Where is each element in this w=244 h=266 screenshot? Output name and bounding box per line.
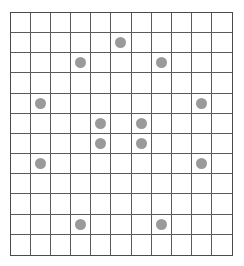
board-cell[interactable]	[11, 53, 31, 73]
board-cell[interactable]	[172, 33, 192, 53]
board-cell[interactable]	[11, 94, 31, 114]
board-cell[interactable]	[192, 215, 212, 235]
board-cell[interactable]	[71, 194, 91, 214]
board-cell[interactable]	[132, 94, 152, 114]
board-cell[interactable]	[172, 215, 192, 235]
game-piece-dot[interactable]	[156, 219, 167, 230]
board-cell[interactable]	[31, 174, 51, 194]
board-cell[interactable]	[172, 134, 192, 154]
board-cell[interactable]	[152, 13, 172, 33]
board-cell[interactable]	[11, 215, 31, 235]
board-cell[interactable]	[31, 215, 51, 235]
board-cell[interactable]	[31, 114, 51, 134]
board-cell[interactable]	[91, 235, 111, 255]
board-cell[interactable]	[91, 94, 111, 114]
board-cell[interactable]	[31, 13, 51, 33]
board-cell[interactable]	[31, 194, 51, 214]
board-cell[interactable]	[212, 215, 232, 235]
board-cell[interactable]	[11, 33, 31, 53]
board-cell[interactable]	[152, 114, 172, 134]
board-cell[interactable]	[91, 174, 111, 194]
board-cell[interactable]	[31, 33, 51, 53]
board-cell[interactable]	[132, 73, 152, 93]
board-cell[interactable]	[152, 94, 172, 114]
board-cell[interactable]	[212, 194, 232, 214]
board-cell[interactable]	[111, 73, 131, 93]
board-cell[interactable]	[192, 174, 212, 194]
board-cell[interactable]	[11, 13, 31, 33]
board-cell[interactable]	[51, 94, 71, 114]
board-cell[interactable]	[51, 194, 71, 214]
board-cell[interactable]	[111, 154, 131, 174]
board-cell[interactable]	[51, 154, 71, 174]
board-cell[interactable]	[51, 33, 71, 53]
board-cell[interactable]	[192, 154, 212, 174]
board-cell[interactable]	[212, 33, 232, 53]
board-cell[interactable]	[91, 194, 111, 214]
board-cell[interactable]	[192, 235, 212, 255]
board-cell[interactable]	[91, 13, 111, 33]
board-cell[interactable]	[71, 13, 91, 33]
board-cell[interactable]	[91, 134, 111, 154]
board-cell[interactable]	[71, 94, 91, 114]
board-cell[interactable]	[91, 53, 111, 73]
board-cell[interactable]	[71, 73, 91, 93]
board-cell[interactable]	[71, 114, 91, 134]
board-cell[interactable]	[11, 235, 31, 255]
board-cell[interactable]	[132, 114, 152, 134]
board-cell[interactable]	[11, 73, 31, 93]
board-cell[interactable]	[172, 114, 192, 134]
board-cell[interactable]	[192, 53, 212, 73]
game-piece-dot[interactable]	[75, 219, 86, 230]
board-cell[interactable]	[152, 194, 172, 214]
board-cell[interactable]	[31, 73, 51, 93]
game-piece-dot[interactable]	[115, 37, 126, 48]
board-cell[interactable]	[51, 53, 71, 73]
game-piece-dot[interactable]	[95, 138, 106, 149]
game-piece-dot[interactable]	[75, 57, 86, 68]
board-cell[interactable]	[51, 73, 71, 93]
board-cell[interactable]	[172, 194, 192, 214]
board-cell[interactable]	[11, 194, 31, 214]
game-piece-dot[interactable]	[196, 158, 207, 169]
board-cell[interactable]	[31, 94, 51, 114]
board-cell[interactable]	[192, 94, 212, 114]
board-cell[interactable]	[172, 235, 192, 255]
game-piece-dot[interactable]	[35, 98, 46, 109]
board-cell[interactable]	[132, 154, 152, 174]
board-cell[interactable]	[192, 13, 212, 33]
board-cell[interactable]	[152, 235, 172, 255]
board-cell[interactable]	[71, 235, 91, 255]
board-cell[interactable]	[91, 73, 111, 93]
board-cell[interactable]	[132, 174, 152, 194]
board-cell[interactable]	[51, 13, 71, 33]
board-cell[interactable]	[132, 194, 152, 214]
board-cell[interactable]	[111, 215, 131, 235]
board-cell[interactable]	[132, 13, 152, 33]
game-piece-dot[interactable]	[35, 158, 46, 169]
board-cell[interactable]	[152, 53, 172, 73]
board-cell[interactable]	[111, 235, 131, 255]
board-cell[interactable]	[212, 53, 232, 73]
board-cell[interactable]	[152, 215, 172, 235]
board-cell[interactable]	[132, 134, 152, 154]
board-cell[interactable]	[51, 134, 71, 154]
board-cell[interactable]	[11, 134, 31, 154]
board-cell[interactable]	[71, 215, 91, 235]
board-cell[interactable]	[111, 114, 131, 134]
board-cell[interactable]	[192, 134, 212, 154]
board-cell[interactable]	[212, 13, 232, 33]
board-cell[interactable]	[192, 114, 212, 134]
board-cell[interactable]	[152, 154, 172, 174]
board-cell[interactable]	[91, 33, 111, 53]
board-cell[interactable]	[111, 194, 131, 214]
board-cell[interactable]	[31, 235, 51, 255]
board-cell[interactable]	[111, 13, 131, 33]
board-cell[interactable]	[111, 33, 131, 53]
board-cell[interactable]	[172, 13, 192, 33]
board-cell[interactable]	[111, 134, 131, 154]
board-cell[interactable]	[152, 33, 172, 53]
board-cell[interactable]	[11, 154, 31, 174]
board-cell[interactable]	[152, 174, 172, 194]
board-cell[interactable]	[212, 235, 232, 255]
